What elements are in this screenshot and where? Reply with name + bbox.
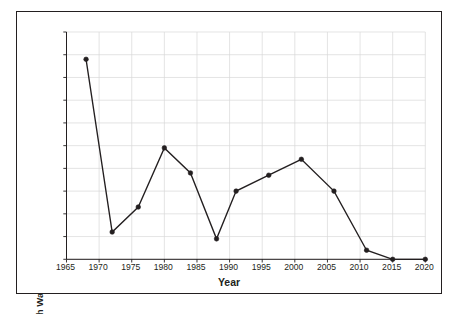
x-tick-label: 2015 xyxy=(376,263,408,272)
x-axis-label: Year xyxy=(0,276,458,288)
x-tick-label: 2000 xyxy=(278,263,310,272)
x-tick-label: 2010 xyxy=(343,263,375,272)
x-tick-label: 1980 xyxy=(147,263,179,272)
x-tick-label: 1995 xyxy=(245,263,277,272)
x-tick-label: 1975 xyxy=(115,263,147,272)
x-tick-label: 1970 xyxy=(82,263,114,272)
x-tick-label: 2020 xyxy=(408,263,440,272)
x-tick-label: 1965 xyxy=(50,263,82,272)
chart-figure: Proportion of Electoral Districts with W… xyxy=(0,0,458,314)
x-tick-label: 1985 xyxy=(180,263,212,272)
x-tick-label: 2005 xyxy=(310,263,342,272)
x-tick-label: 1990 xyxy=(213,263,245,272)
x-axis-tick-labels: 1965197019751980198519901995200020052010… xyxy=(0,0,458,314)
